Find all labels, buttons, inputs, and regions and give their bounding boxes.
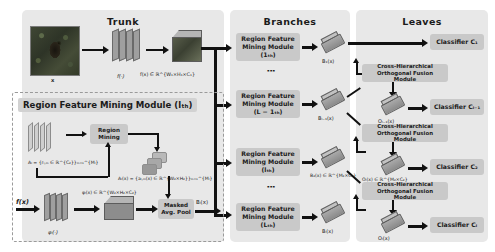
classifier-3[interactable]: Classifier C₂	[430, 159, 484, 175]
region-mining-label-line1: Region	[98, 127, 120, 134]
arrowhead-branch-module-2-out	[312, 100, 318, 108]
branch-module-3-line3: (lₜₕ)	[262, 166, 275, 174]
arrow-phi-to-feature	[74, 208, 96, 211]
arrowhead-b1-to-classifier-1	[422, 39, 428, 47]
classifier-3-label: Classifier C₂	[436, 163, 478, 171]
fusion-module-2-line1: Cross-Hierarchical	[377, 123, 433, 130]
classifier-4-label: Classifier Cₗ	[437, 221, 477, 229]
fusion-module-1-line2: Orthogonal Fusion Module	[365, 70, 445, 84]
fusion-module-3-line1: Cross-Hierarchical	[377, 181, 433, 188]
arrowhead-b1-elbow	[353, 58, 359, 63]
arrow-input-to-backbone	[82, 49, 104, 51]
input-image	[30, 26, 80, 76]
arrowhead-backbone-to-feature	[163, 46, 169, 54]
arrowhead-branch-module-3-out	[312, 158, 318, 166]
branch-module-2-line1: Region Feature	[241, 92, 294, 100]
branch-module-4-line1: Region Feature	[241, 205, 294, 213]
branch-ellipsis-1: ⋮	[266, 66, 275, 77]
column-title-leaves: Leaves	[356, 16, 488, 27]
classifier-1[interactable]: Classifier C₁	[430, 34, 484, 50]
phi-label: φₗ(·)	[48, 229, 58, 235]
masked-pool-label-line2: Avg. Pool	[161, 209, 191, 216]
arrowhead-o3-to-classifier-4	[422, 222, 428, 230]
arrowhead-anchor-to-region-mining	[105, 142, 111, 147]
branch-output-label-1: B₁(x)	[322, 58, 334, 64]
arrowhead-branch-3	[226, 159, 232, 167]
arrow-backbone-to-feature	[146, 49, 164, 51]
branch-module-2-line3: (L − 1ₜₕ)	[254, 108, 283, 116]
column-title-branches: Branches	[230, 16, 350, 27]
phi-output-dim-label: φₗ(x) ∈ ℝ^{W₂×H₂×C₂}	[82, 190, 137, 195]
fusion-module-3-line2: Orthogonal Fusion Module	[365, 188, 445, 202]
arrow-region-mining-to-attention	[128, 133, 158, 135]
region-mining-label-line2: Mining	[98, 134, 119, 141]
fusion-module-1[interactable]: Cross-Hierarchical Orthogonal Fusion Mod…	[362, 64, 448, 82]
branch-module-4[interactable]: Region Feature Mining Module (Lₜₕ)	[236, 203, 300, 231]
branch-module-3-line2: Mining Module	[242, 158, 293, 166]
fusion-module-2-line2: Orthogonal Fusion Module	[365, 130, 445, 144]
branch-module-4-line2: Mining Module	[242, 213, 293, 221]
classifier-2[interactable]: Classifier Cₗ₋₁	[430, 99, 484, 115]
arrow-rfm-input	[16, 208, 36, 211]
feature-cube	[172, 30, 202, 62]
branch-module-2[interactable]: Region Feature Mining Module (L − 1ₜₕ)	[236, 90, 300, 118]
fusion-module-3[interactable]: Cross-Hierarchical Orthogonal Fusion Mod…	[362, 182, 448, 200]
region-mining-box[interactable]: Region Mining	[90, 124, 128, 144]
input-feature-plates	[28, 120, 62, 154]
arrowhead-branch-module-4-out	[312, 213, 318, 221]
masked-avg-pool-box[interactable]: Masked Avg. Pool	[158, 199, 194, 219]
fusion-module-1-line1: Cross-Hierarchical	[377, 63, 433, 70]
branch-module-3-line1: Region Feature	[241, 150, 294, 158]
anchor-label: Aₗ = {rₗ,ₘ ∈ ℝ^{C₂}}ₘ₌₁^{Mₗ}	[28, 160, 98, 165]
phi-conv-stack	[44, 192, 70, 224]
arrow-anchor-vertical	[108, 146, 110, 177]
classifier-4[interactable]: Classifier Cₗ	[430, 217, 484, 233]
arrow-anchor-stub	[36, 168, 38, 177]
attention-dim-label: Aₗ(x) = {aₗ,ₘ(x) ∈ ℝ^{W₂×H₂}}ₘ₌₁^{Mₗ}	[118, 176, 212, 181]
arrow-bl-elbow-horizontal	[356, 209, 366, 211]
region-feature-mining-title: Region Feature Mining Module (lₜₕ)	[18, 98, 197, 112]
branch-ellipsis-2: ⋮	[266, 182, 275, 193]
branch-module-2-line2: Mining Module	[242, 100, 293, 108]
branch-output-label-4: Bₗ(x)	[322, 228, 333, 234]
arrowhead-o2-to-classifier-3	[422, 164, 428, 172]
branch-module-1-line3: (1ₜₕ)	[260, 51, 275, 59]
arrow-anchor-horizontal	[36, 176, 108, 178]
rfm-output-label: Bₗ(x)	[196, 199, 208, 205]
fusion-output-label-3: Oₗ(x)	[378, 235, 390, 241]
arrowhead-branch-1	[226, 44, 232, 52]
arrow-b2-elbow-horizontal	[356, 151, 366, 153]
arrowhead-branch-module-1-out	[312, 43, 318, 51]
branch-module-4-line3: (Lₜₕ)	[261, 221, 276, 229]
fusion-module-2[interactable]: Cross-Hierarchical Orthogonal Fusion Mod…	[362, 124, 448, 142]
arrow-b1-to-classifier-1	[348, 42, 424, 45]
branch-module-1-line1: Region Feature	[241, 35, 294, 43]
arrowhead-branch-2	[226, 101, 232, 109]
masked-pool-label-line1: Masked	[164, 202, 188, 209]
attention-mask-3	[142, 164, 157, 175]
classifier-2-label: Classifier Cₗ₋₁	[434, 103, 480, 111]
figure-canvas: Trunk Branches Leaves x f(·) f(x) ∈ ℝ^{W…	[0, 0, 495, 252]
arrowhead-b2-elbow	[353, 136, 359, 141]
phi-feature-cube	[104, 196, 134, 220]
feature-dim-label: f(x) ∈ ℝ^{W₁×H₁×C₁}	[140, 72, 195, 77]
arrowhead-rfm-input	[34, 205, 40, 213]
backbone-label: f(·)	[117, 73, 125, 79]
branch-module-1-line2: Mining Module	[242, 43, 293, 51]
rfm-input-label: f(x)	[16, 198, 29, 206]
arrowhead-pool-to-output	[215, 207, 221, 215]
branch-module-1[interactable]: Region Feature Mining Module (1ₜₕ)	[236, 33, 300, 61]
branch-module-3[interactable]: Region Feature Mining Module (lₜₕ)	[236, 148, 300, 176]
branch-output-label-2: Bₗ₋₁(x)	[318, 115, 334, 121]
arrowhead-input-to-backbone	[103, 46, 109, 54]
arrow-pool-to-output	[195, 210, 217, 213]
arrowhead-bl-elbow	[353, 194, 359, 199]
backbone-conv-stack	[112, 30, 142, 64]
arrowhead-o1-to-classifier-2	[422, 104, 428, 112]
arrowhead-branch-4	[226, 211, 232, 219]
input-label: x	[51, 77, 54, 83]
arrowhead-phi-to-feature	[94, 205, 100, 213]
arrow-masks-to-pool	[168, 176, 170, 196]
arrowhead-plates-to-region-mining	[82, 131, 87, 137]
classifier-1-label: Classifier C₁	[436, 38, 478, 46]
